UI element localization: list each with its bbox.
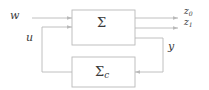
signal-label-w: w [10, 10, 19, 21]
signal-label-z0: z0 [184, 7, 193, 17]
plant-block-label: Σ [97, 16, 106, 29]
signal-label-z1-subscript: 1 [189, 21, 193, 28]
signal-label-z1: z1 [184, 18, 193, 28]
signal-line-u [42, 27, 72, 72]
controller-block-label: Σc [95, 65, 109, 80]
signal-label-z0-subscript: 0 [189, 10, 193, 17]
controller-block-label-base: Σ [95, 64, 104, 79]
controller-block-label-subscript: c [104, 70, 109, 80]
block-diagram-figure: Σ Σc w u y z0 z1 [0, 0, 209, 90]
signal-label-u: u [26, 32, 33, 43]
signal-line-y [135, 38, 163, 72]
signal-label-y: y [168, 41, 174, 52]
